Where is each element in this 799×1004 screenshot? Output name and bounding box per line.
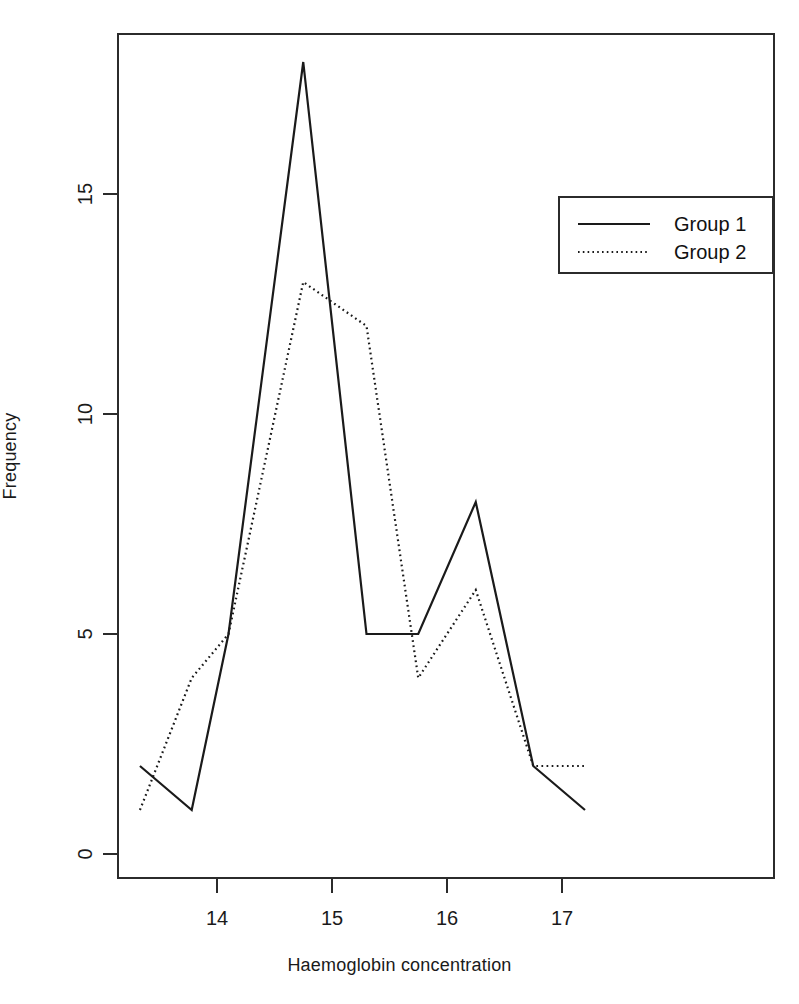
x-axis-title: Haemoglobin concentration <box>0 955 799 976</box>
x-tick-label-14: 14 <box>206 907 228 930</box>
series-layer <box>140 62 585 810</box>
y-axis-title: Frequency <box>0 376 21 536</box>
y-tick-label-10: 10 <box>74 400 97 428</box>
legend-key-dotted-line-icon <box>578 246 650 258</box>
figure-canvas: 14151617 051015 Haemoglobin concentratio… <box>0 0 799 1004</box>
legend-entry-group-2: Group 2 <box>560 239 772 265</box>
legend-label-group-1: Group 1 <box>674 213 746 236</box>
legend-box: Group 1 Group 2 <box>558 196 774 274</box>
x-tick-label-17: 17 <box>551 907 573 930</box>
series-line-group-2 <box>140 282 585 810</box>
y-tick-label-5: 5 <box>74 620 97 648</box>
plot-svg <box>0 0 799 1004</box>
tick-marks <box>103 194 562 893</box>
x-tick-label-16: 16 <box>436 907 458 930</box>
y-tick-label-15: 15 <box>74 180 97 208</box>
series-line-group-1 <box>140 62 585 810</box>
legend-label-group-2: Group 2 <box>674 241 746 264</box>
y-tick-label-0: 0 <box>74 840 97 868</box>
legend-entry-group-1: Group 1 <box>560 211 772 237</box>
x-tick-label-15: 15 <box>321 907 343 930</box>
legend-key-solid-line-icon <box>578 218 650 230</box>
